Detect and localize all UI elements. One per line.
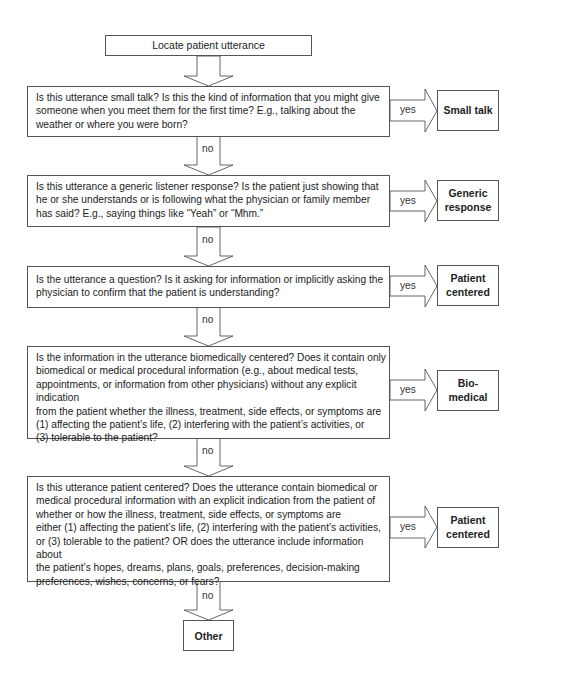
question-line: appointments, or information from other … (36, 378, 389, 405)
question-line: Is the information in the utterance biom… (36, 351, 389, 364)
question-line: (1) affecting the patient’s life, (2) in… (36, 418, 389, 431)
question-line: has said? E.g., saying things like “Yeah… (36, 207, 389, 220)
question-line: preferences, wishes, concerns, or fears? (36, 575, 389, 588)
question-line: Is the utterance a question? Is it askin… (36, 273, 389, 286)
question-box-generic-response: Is this utterance a generic listener res… (27, 175, 390, 227)
arrow-down-no-2 (184, 227, 233, 266)
yes-label: yes (400, 104, 416, 115)
outcome-patient-centered: Patient centered (437, 507, 499, 548)
yes-label: yes (400, 384, 416, 395)
no-label: no (202, 143, 213, 154)
question-box-patient-centered: Is this utterance patient centered? Does… (27, 476, 390, 582)
question-box-biomedical: Is the information in the utterance biom… (27, 346, 390, 439)
outcome-small-talk: Small talk (437, 90, 499, 131)
outcome-line: Small talk (443, 104, 492, 117)
yes-label: yes (400, 521, 416, 532)
arrow-down-no-1 (184, 136, 233, 175)
question-line: (3) tolerable to the patient? (36, 431, 389, 444)
no-label: no (202, 234, 213, 245)
final-label: Other (194, 630, 222, 642)
outcome-biomedical: Bio- medical (437, 370, 499, 411)
final-box-other: Other (183, 620, 234, 651)
no-label: no (202, 590, 213, 601)
no-label: no (202, 314, 213, 325)
question-line: from the patient whether the illness, tr… (36, 405, 389, 418)
outcome-line: medical (448, 391, 487, 404)
question-line: either (1) affecting the patient’s life,… (36, 521, 389, 534)
question-line: or (3) tolerable to the patient? OR does… (36, 535, 389, 562)
start-box: Locate patient utterance (105, 35, 312, 56)
outcome-patient-centered-question: Patient centered (437, 265, 499, 306)
arrow-down-start (184, 56, 233, 86)
outcome-line: response (445, 201, 492, 214)
question-line: weather or where you were born? (36, 118, 389, 131)
outcome-line: centered (446, 528, 490, 541)
arrow-down-no-3 (184, 307, 233, 346)
outcome-line: Generic (445, 187, 492, 200)
outcome-line: Patient (446, 272, 490, 285)
question-line: medical procedural information with an e… (36, 494, 389, 507)
question-line: Is this utterance patient centered? Does… (36, 481, 389, 494)
question-line: the patient’s hopes, dreams, plans, goal… (36, 561, 389, 574)
question-box-small-talk: Is this utterance small talk? Is this th… (27, 86, 390, 137)
question-line: Is this utterance small talk? Is this th… (36, 91, 389, 104)
question-line: physician to confirm that the patient is… (36, 286, 389, 299)
question-line: he or she understands or is following wh… (36, 193, 389, 206)
question-line: biomedical or medical procedural informa… (36, 364, 389, 377)
outcome-generic-response: Generic response (437, 180, 499, 221)
question-line: whether or how the illness, treatment, s… (36, 508, 389, 521)
outcome-line: centered (446, 286, 490, 299)
question-line: Is this utterance a generic listener res… (36, 180, 389, 193)
no-label: no (202, 445, 213, 456)
yes-label: yes (400, 280, 416, 291)
start-label: Locate patient utterance (152, 39, 265, 51)
question-line: someone when you meet them for the first… (36, 104, 389, 117)
outcome-line: Patient (446, 514, 490, 527)
outcome-line: Bio- (448, 377, 487, 390)
yes-label: yes (400, 195, 416, 206)
question-box-question: Is the utterance a question? Is it askin… (27, 266, 390, 308)
